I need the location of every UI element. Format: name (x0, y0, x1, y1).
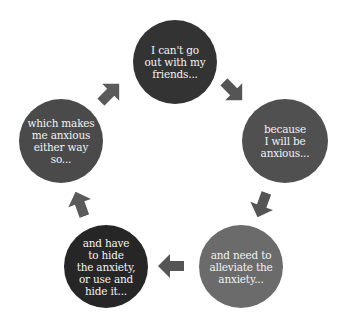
cycle-diagram: I can't go out with my friends... becaus… (0, 0, 347, 327)
node-need-to-alleviate: and need to alleviate the anxiety... (199, 225, 283, 308)
arrow-up-left-icon (63, 187, 96, 220)
arrow-left-icon (158, 253, 184, 279)
arrow-up-right-icon (92, 75, 129, 112)
arrow-down-right-icon (215, 73, 252, 110)
node-will-be-anxious: because I will be anxious... (242, 99, 328, 183)
node-makes-me-anxious: which makes me anxious either way so... (19, 99, 103, 183)
node-hide-anxiety: and have to hide the anxiety, or use and… (64, 225, 148, 308)
arrow-down-left-icon (245, 188, 278, 221)
node-cant-go-out: I can't go out with my friends... (133, 20, 217, 104)
